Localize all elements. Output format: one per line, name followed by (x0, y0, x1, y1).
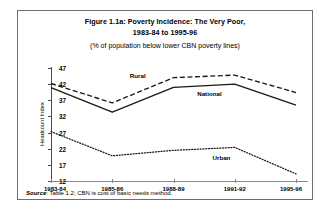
figure-frame: Figure 1.1a: Poverty Incidence: The Very… (17, 10, 313, 200)
series-line-national (51, 84, 296, 112)
series-line-rural (51, 75, 296, 103)
series-line-urban (51, 132, 296, 174)
source-label: Source (26, 190, 46, 196)
chart-plot-lines (18, 11, 314, 201)
source-note: Source: Table 1.2; CBN is cost of basic … (26, 190, 172, 196)
source-text: : Table 1.2; CBN is cost of basic needs … (46, 190, 172, 196)
